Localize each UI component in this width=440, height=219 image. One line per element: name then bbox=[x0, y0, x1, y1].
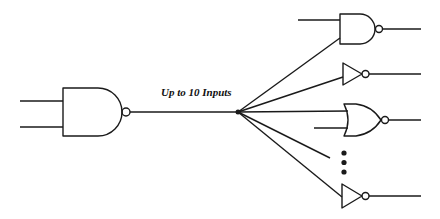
wire-partial bbox=[238, 112, 330, 158]
inversion-bubble bbox=[362, 71, 369, 78]
target-nand-gate bbox=[298, 14, 421, 44]
inverter-body bbox=[342, 184, 362, 208]
ellipsis-icon bbox=[341, 150, 346, 174]
fanout-diagram bbox=[0, 0, 440, 219]
wire-to-inverter-1 bbox=[238, 77, 343, 112]
target-inverter-1 bbox=[343, 63, 421, 85]
inversion-bubble bbox=[382, 117, 389, 124]
fanout-label: Up to 10 Inputs bbox=[161, 86, 232, 98]
target-nor-gate bbox=[314, 104, 421, 136]
inversion-bubble bbox=[122, 108, 130, 116]
inverter-body bbox=[343, 63, 362, 85]
nor-body bbox=[344, 104, 381, 136]
wire-to-nor bbox=[238, 111, 348, 112]
nand-body bbox=[63, 88, 122, 136]
wire-to-nand bbox=[238, 38, 340, 112]
fanout-wires bbox=[238, 38, 348, 197]
inversion-bubble bbox=[362, 193, 369, 200]
wire-to-inverter-2 bbox=[238, 112, 342, 197]
fanout-node bbox=[236, 110, 241, 115]
target-inverter-2 bbox=[342, 184, 421, 208]
inversion-bubble bbox=[376, 26, 383, 33]
nand-body bbox=[340, 14, 375, 44]
